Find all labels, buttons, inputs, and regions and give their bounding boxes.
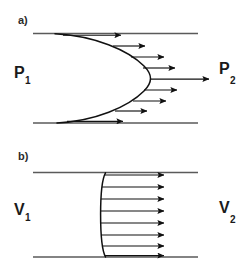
panel-b-letter: b) (18, 150, 29, 162)
panel-a-right-label-subscript: 2 (230, 75, 236, 86)
panel-b-plug-profile (101, 173, 106, 257)
panel-b-left-label: V 1 (14, 201, 31, 223)
panel-b-right-label: V 2 (219, 199, 236, 225)
panel-b-left-label-text: V (14, 201, 25, 218)
panel-b-right-label-text: V (219, 199, 230, 216)
panel-b: b) V 1 V (14, 150, 236, 257)
panel-a-right-label-text: P (219, 60, 230, 77)
panel-b-velocity-vectors (101, 175, 164, 256)
panel-a-left-label-subscript: 1 (25, 75, 31, 86)
panel-a-left-label: P 1 (14, 64, 31, 86)
velocity-profile-figure: a) P 1 (0, 0, 252, 277)
panel-a-velocity-vectors (63, 35, 209, 121)
panel-a-right-label: P 2 (219, 60, 236, 86)
figure-canvas: a) P 1 (0, 0, 252, 277)
panel-b-right-label-subscript: 2 (230, 214, 236, 225)
panel-a-left-label-text: P (14, 64, 25, 81)
panel-a-parabolic-profile (55, 34, 151, 123)
panel-a-letter: a) (18, 14, 28, 26)
panel-b-left-label-subscript: 1 (25, 212, 31, 223)
panel-a: a) P 1 (14, 14, 236, 123)
